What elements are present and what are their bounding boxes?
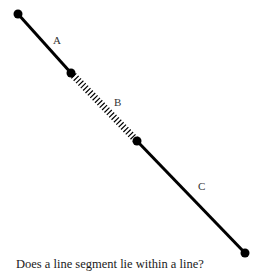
endpoint-2 (67, 69, 76, 78)
label-a: A (53, 34, 61, 46)
label-c: C (198, 180, 205, 192)
segment-b (71, 73, 137, 141)
diagram-canvas: A B C Does a line segment lie within a l… (0, 0, 260, 280)
label-b: B (114, 96, 121, 108)
endpoint-3 (133, 137, 142, 146)
segment-c (137, 141, 245, 253)
segment-a (18, 14, 71, 73)
line-diagram: A B C (0, 0, 260, 280)
caption: Does a line segment lie within a line? (16, 257, 204, 272)
endpoint-1 (14, 10, 23, 19)
endpoint-4 (241, 249, 250, 258)
